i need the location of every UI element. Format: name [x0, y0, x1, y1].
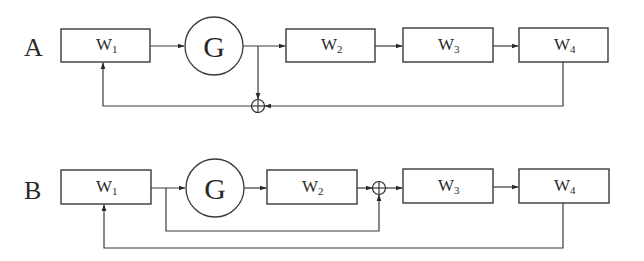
- block-b-w4: W4: [519, 169, 609, 203]
- block-b-w3: W3: [403, 169, 493, 203]
- panel-label-b: B: [24, 176, 41, 205]
- block-a-w1: W1: [61, 29, 150, 62]
- block-b-w1: W1: [61, 170, 151, 204]
- diagram-b: B W1 G W2: [24, 159, 609, 248]
- arrow-b-w4-to-w1: [104, 203, 563, 248]
- block-a-w2: W2: [286, 29, 375, 62]
- block-a-w4: W4: [519, 28, 608, 62]
- block-a-w3: W3: [403, 28, 493, 62]
- block-b-g: G: [186, 159, 244, 217]
- block-b-g-label: G: [204, 172, 226, 205]
- block-a-g: G: [185, 17, 243, 75]
- panel-label-a: A: [24, 33, 43, 62]
- diagram-a: A W1 G W2 W3 W4: [24, 17, 608, 113]
- block-diagram: A W1 G W2 W3 W4: [0, 0, 644, 261]
- sum-junction-a: [252, 100, 265, 113]
- sum-junction-b: [373, 182, 386, 195]
- arrow-a-w4-to-sum: [265, 62, 563, 106]
- block-a-g-label: G: [203, 30, 225, 63]
- block-b-w2: W2: [267, 170, 357, 204]
